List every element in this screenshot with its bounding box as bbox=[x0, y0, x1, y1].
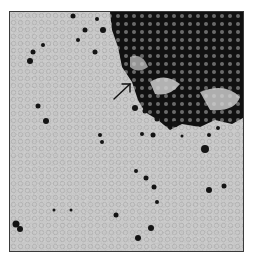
micrograph-image bbox=[9, 11, 244, 252]
micrograph-canvas bbox=[10, 12, 244, 252]
